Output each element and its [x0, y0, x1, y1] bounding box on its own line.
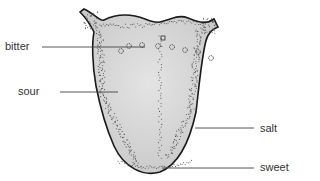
stipple-dot [192, 77, 193, 78]
stipple-dot [133, 156, 134, 157]
stipple-dot [191, 111, 192, 112]
stipple-dot [135, 26, 136, 27]
stipple-dot [193, 99, 194, 100]
stipple-dot [109, 110, 110, 111]
stipple-dot [99, 43, 100, 44]
stipple-dot [157, 152, 158, 153]
stipple-dot [145, 23, 146, 24]
stipple-dot [181, 121, 182, 122]
stipple-dot [158, 121, 159, 122]
stipple-dot [210, 30, 211, 31]
stipple-dot [156, 168, 157, 169]
stipple-dot [157, 167, 158, 168]
stipple-dot [178, 165, 179, 166]
stipple-dot [103, 23, 104, 24]
stipple-dot [200, 37, 201, 38]
stipple-dot [202, 23, 203, 24]
stipple-dot [158, 72, 159, 73]
stipple-dot [159, 116, 160, 117]
stipple-dot [188, 98, 189, 99]
stipple-dot [196, 88, 197, 89]
stipple-dot [128, 146, 129, 147]
stipple-dot [161, 158, 162, 159]
stipple-dot [198, 59, 199, 60]
stipple-dot [123, 137, 124, 138]
stipple-dot [104, 82, 105, 83]
stipple-dot [102, 57, 103, 58]
stipple-dot [172, 150, 173, 151]
stipple-dot [106, 98, 107, 99]
stipple-dot [131, 150, 132, 151]
stipple-dot [149, 23, 150, 24]
stipple-dot [108, 112, 109, 113]
stipple-dot [133, 23, 134, 24]
stipple-dot [174, 148, 175, 149]
stipple-dot [182, 132, 183, 133]
stipple-dot [98, 51, 99, 52]
stipple-dot [194, 55, 195, 56]
stipple-dot [128, 150, 129, 151]
stipple-dot [176, 144, 177, 145]
stipple-dot [199, 52, 200, 53]
stipple-dot [187, 107, 188, 108]
stipple-dot [195, 86, 196, 87]
stipple-dot [195, 63, 196, 64]
stipple-dot [161, 93, 162, 94]
stipple-dot [124, 141, 125, 142]
stipple-dot [161, 64, 162, 65]
stipple-dot [194, 94, 195, 95]
stipple-dot [126, 146, 127, 147]
stipple-dot [204, 33, 205, 34]
stipple-dot [97, 48, 98, 49]
stipple-dot [161, 126, 162, 127]
stipple-dot [137, 23, 138, 24]
stipple-dot [168, 154, 169, 155]
stipple-dot [101, 62, 102, 63]
stipple-dot [193, 21, 194, 22]
stipple-dot [113, 24, 114, 25]
stipple-dot [104, 70, 105, 71]
stipple-dot [156, 23, 157, 24]
stipple-dot [151, 166, 152, 167]
stipple-dot [107, 106, 108, 107]
stipple-dot [159, 77, 160, 78]
stipple-dot [115, 25, 116, 26]
stipple-dot [87, 14, 88, 15]
stipple-dot [161, 41, 162, 42]
stipple-dot [89, 26, 90, 27]
stipple-dot [144, 26, 145, 27]
stipple-dot [104, 54, 105, 55]
stipple-dot [100, 79, 101, 80]
stipple-dot [161, 46, 162, 47]
stipple-dot [111, 119, 112, 120]
stipple-dot [98, 34, 99, 35]
stipple-dot [159, 80, 160, 81]
stipple-dot [192, 66, 193, 67]
stipple-dot [179, 20, 180, 21]
stipple-dot [103, 95, 104, 96]
stipple-dot [178, 20, 179, 21]
stipple-dot [202, 28, 203, 29]
stipple-dot [209, 26, 210, 27]
stipple-dot [183, 127, 184, 128]
stipple-dot [118, 131, 119, 132]
stipple-dot [186, 162, 187, 163]
stipple-dot [215, 20, 216, 21]
stipple-dot [186, 114, 187, 115]
stipple-dot [99, 31, 100, 32]
stipple-dot [139, 25, 140, 26]
stipple-dot [103, 61, 104, 62]
stipple-dot [190, 113, 191, 114]
stipple-dot [176, 134, 177, 135]
stipple-dot [160, 87, 161, 88]
stipple-dot [198, 61, 199, 62]
stipple-dot [161, 124, 162, 125]
stipple-dot [186, 122, 187, 123]
stipple-dot [99, 42, 100, 43]
stipple-dot [205, 32, 206, 33]
stipple-dot [180, 132, 181, 133]
stipple-dot [207, 21, 208, 22]
stipple-dot [189, 95, 190, 96]
stipple-dot [104, 77, 105, 78]
stipple-dot [159, 166, 160, 167]
